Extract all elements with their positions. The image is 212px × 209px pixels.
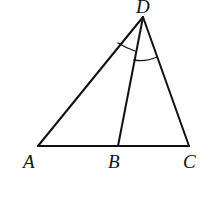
label-a: A [21, 151, 35, 172]
label-b: B [108, 151, 120, 172]
angle-arc-bdc [134, 57, 157, 61]
segment-cd [143, 17, 189, 146]
segment-bd [118, 17, 143, 146]
label-d: D [135, 0, 150, 17]
triangle-figure: D A B C [0, 0, 212, 209]
label-c: C [183, 151, 196, 172]
segment-ad [38, 17, 143, 146]
angle-arc-adb [118, 43, 135, 51]
